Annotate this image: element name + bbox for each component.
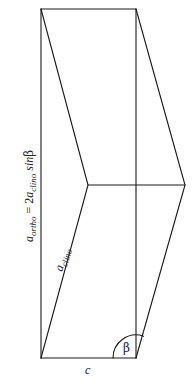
sin-text: sin [22, 157, 36, 174]
equals-two: = 2 [22, 198, 36, 217]
svg-text:aortho = 2aclino sinβ: aortho = 2aclino sinβ [22, 150, 38, 242]
left-slanted-edges [41, 9, 88, 358]
beta-label: β [123, 341, 130, 355]
beta-symbol: β [22, 150, 36, 157]
a-clino-sub-rhs: clino [28, 173, 38, 191]
cell-diagram: β c aclino aortho = 2aclino sinβ [0, 0, 194, 384]
a-clino-sub: clino [59, 247, 74, 268]
right-slanted-edges [136, 9, 185, 358]
a-ortho-sub: ortho [28, 216, 38, 236]
c-label: c [85, 363, 91, 377]
a-ortho-relation-label: aortho = 2aclino sinβ [22, 150, 38, 242]
